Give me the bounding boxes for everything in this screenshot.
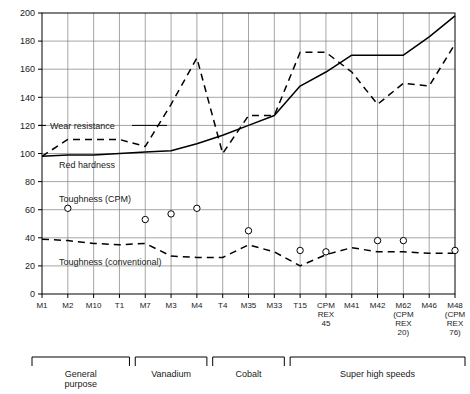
- y-axis-tick-label: 40: [25, 233, 35, 243]
- y-axis-tick-label: 80: [25, 177, 35, 187]
- x-axis-tick-label: M42: [370, 301, 386, 310]
- x-axis-tick-label: M48: [447, 301, 463, 310]
- x-axis-tick-label: (CPM: [445, 310, 466, 319]
- x-axis-tick-label: M2: [62, 301, 74, 310]
- tool-steel-properties-chart: 020406080100120140160180200M1M2M10T1M7M3…: [0, 0, 470, 394]
- x-axis-tick-label: M35: [241, 301, 257, 310]
- annotation-toughness-cpm: Toughness (CPM): [59, 194, 131, 204]
- x-axis-tick-label: REX: [447, 319, 464, 328]
- x-axis-tick-label: M41: [344, 301, 360, 310]
- x-axis-tick-label: 45: [321, 319, 330, 328]
- group-label: Vanadium: [151, 369, 191, 379]
- group-label: purpose: [64, 379, 97, 389]
- x-axis-tick-label: CPM: [317, 301, 335, 310]
- x-axis-tick-label: T1: [115, 301, 125, 310]
- group-label: Cobalt: [235, 369, 262, 379]
- y-axis-tick-label: 180: [20, 36, 35, 46]
- x-axis-tick-label: M46: [421, 301, 437, 310]
- data-point-toughness-cpm: [297, 247, 303, 253]
- x-axis-tick-label: M62: [396, 301, 412, 310]
- x-axis-tick-label: REX: [318, 310, 335, 319]
- chart-container: 020406080100120140160180200M1M2M10T1M7M3…: [0, 0, 470, 394]
- group-bracket: [213, 357, 285, 366]
- data-point-toughness-cpm: [323, 249, 329, 255]
- x-axis-tick-label: 76): [449, 328, 461, 337]
- data-point-toughness-cpm: [245, 228, 251, 234]
- data-point-toughness-cpm: [400, 237, 406, 243]
- data-point-toughness-cpm: [65, 205, 71, 211]
- y-axis-tick-label: 20: [25, 261, 35, 271]
- x-axis-tick-label: M4: [191, 301, 203, 310]
- data-point-toughness-cpm: [168, 211, 174, 217]
- data-point-toughness-cpm: [142, 216, 148, 222]
- y-axis-tick-label: 200: [20, 8, 35, 18]
- annotation-red-hardness: Red hardness: [59, 160, 116, 170]
- y-axis-tick-label: 60: [25, 205, 35, 215]
- x-axis-tick-label: T4: [218, 301, 228, 310]
- data-point-toughness-cpm: [374, 237, 380, 243]
- annotation-wear-resistance: Wear resistance: [50, 121, 115, 131]
- x-axis-tick-label: REX: [395, 319, 412, 328]
- x-axis-tick-label: M1: [36, 301, 48, 310]
- group-bracket: [135, 357, 207, 366]
- x-axis-tick-label: 20): [398, 328, 410, 337]
- y-axis-tick-label: 120: [20, 121, 35, 131]
- x-axis-tick-label: M7: [140, 301, 152, 310]
- group-bracket: [32, 357, 129, 366]
- y-axis-tick-label: 100: [20, 149, 35, 159]
- x-axis-tick-label: M3: [166, 301, 178, 310]
- y-axis-tick-label: 0: [30, 289, 35, 299]
- y-axis-tick-label: 140: [20, 93, 35, 103]
- x-axis-tick-label: M33: [267, 301, 283, 310]
- group-bracket: [290, 357, 465, 366]
- x-axis-tick-label: (CPM: [393, 310, 414, 319]
- data-point-toughness-cpm: [194, 205, 200, 211]
- annotation-toughness-conventional: Toughness (conventional): [59, 257, 162, 267]
- group-label: Super high speeds: [340, 369, 416, 379]
- x-axis-tick-label: M10: [86, 301, 102, 310]
- group-label: General: [65, 369, 97, 379]
- x-axis-tick-label: T15: [293, 301, 307, 310]
- data-point-toughness-cpm: [452, 247, 458, 253]
- y-axis-tick-label: 160: [20, 64, 35, 74]
